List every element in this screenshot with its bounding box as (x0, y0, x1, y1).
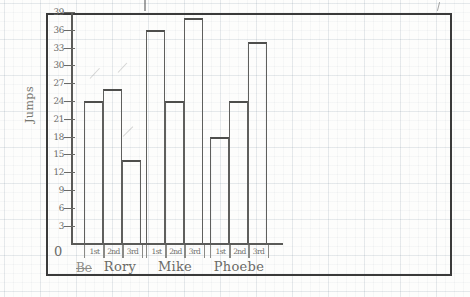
bar-rory-3rd (122, 160, 141, 245)
xcell-mike-1st: 1st (146, 245, 167, 258)
bar-phoebe-3rd (248, 42, 267, 245)
xcell-mike-2nd: 2nd (165, 245, 186, 258)
y-tick (64, 101, 75, 102)
y-axis-line (71, 12, 73, 245)
y-tick (64, 48, 75, 49)
y-tick (64, 172, 75, 173)
y-tick-label: 3 (44, 221, 64, 232)
y-tick-label: 36 (44, 25, 64, 36)
erased-pencil-mark (123, 126, 134, 137)
origin-label: 0 (54, 244, 62, 259)
xcell-phoebe-2nd: 2nd (229, 245, 250, 258)
y-tick-label: 15 (44, 149, 64, 160)
y-axis-label: Jumps (23, 75, 36, 135)
bar-chart-plot: Jumps 39 36 33 30 27 24 21 18 15 12 9 6 … (0, 0, 470, 297)
y-tick-label: 27 (44, 78, 64, 89)
y-tick-label: 9 (44, 185, 64, 196)
y-tick (64, 226, 75, 227)
y-tick-label: 39 (44, 7, 64, 18)
y-tick (64, 190, 75, 191)
group-label-rory: Rory (92, 259, 148, 274)
xcell-rory-3rd: 3rd (122, 245, 143, 258)
xcell-phoebe-3rd: 3rd (248, 245, 269, 258)
xcell-rory-1st: 1st (84, 245, 105, 258)
bar-phoebe-1st (210, 137, 229, 245)
y-tick (64, 208, 75, 209)
y-tick-label: 33 (44, 43, 64, 54)
y-tick-label: 21 (44, 114, 64, 125)
y-tick-label: 18 (44, 132, 64, 143)
erased-pencil-mark (118, 63, 128, 73)
erased-pencil-mark (90, 68, 100, 79)
group-label-phoebe: Phoebe (204, 259, 274, 274)
y-tick (64, 119, 75, 120)
y-tick-label: 6 (44, 203, 64, 214)
y-tick-label: 30 (44, 60, 64, 71)
bar-mike-2nd (165, 101, 184, 245)
xcell-phoebe-1st: 1st (210, 245, 231, 258)
bar-rory-1st (84, 101, 103, 245)
chart-screenshot: Jumps 39 36 33 30 27 24 21 18 15 12 9 6 … (0, 0, 470, 297)
y-tick (64, 137, 75, 138)
bar-rory-2nd (103, 89, 122, 245)
y-tick (64, 30, 75, 31)
y-tick-label: 24 (44, 96, 64, 107)
group-label-mike: Mike (146, 259, 204, 274)
bar-phoebe-2nd (229, 101, 248, 245)
y-tick (64, 154, 75, 155)
y-tick (64, 65, 75, 66)
xcell-mike-3rd: 3rd (184, 245, 205, 258)
xcell-rory-2nd: 2nd (103, 245, 124, 258)
y-tick (64, 83, 75, 84)
bar-mike-1st (146, 30, 165, 245)
bar-mike-3rd (184, 18, 203, 245)
y-tick-label: 12 (44, 167, 64, 178)
struck-out-name: Be (76, 261, 92, 275)
y-tick (64, 12, 75, 13)
